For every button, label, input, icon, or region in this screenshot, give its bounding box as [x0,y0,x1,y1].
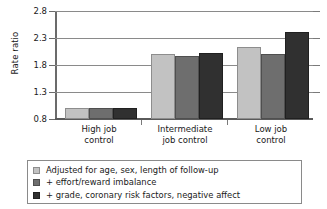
x-category-label-line-2: control [56,135,142,146]
legend-item-grade-risk: + grade, coronary risk factors, negative… [33,189,301,202]
gridline-2.8 [55,11,313,12]
legend-swatch-icon-grade-risk [33,192,40,199]
legend-item-effort-reward: + effort/reward imbalance [33,177,301,190]
x-category-label-line-1: Low job [228,124,314,135]
bar-high-job-control-effort-reward [89,108,113,119]
bar-intermediate-job-control-grade-risk [199,53,223,119]
legend-label-effort-reward: + effort/reward imbalance [46,178,156,187]
bar-intermediate-job-control-adjusted [151,54,175,119]
x-category-label-low-job-control: Low job control [228,124,314,145]
x-category-label-intermediate-job-control: Intermediate job control [142,124,228,145]
bar-high-job-control-adjusted [65,108,89,119]
x-category-label-line-1: Intermediate [142,124,228,135]
bar-low-job-control-grade-risk [285,32,309,119]
y-tick-label-1.8: 1.8 [7,61,47,70]
y-tick-mark-right-2.3 [313,38,320,39]
x-category-label-line-2: control [228,135,314,146]
bar-low-job-control-effort-reward [261,54,285,119]
x-category-label-line-2: job control [142,135,228,146]
legend-swatch-icon-adjusted [33,167,40,174]
y-tick-label-2.3: 2.3 [7,34,47,43]
y-tick-mark-right-2.8 [313,11,320,12]
y-axis-title: Rate ratio [10,18,20,88]
legend-swatch-icon-effort-reward [33,179,40,186]
y-tick-label-0.8: 0.8 [7,115,47,124]
y-tick-label-1.3: 1.3 [7,88,47,97]
legend-label-grade-risk: + grade, coronary risk factors, negative… [46,191,240,200]
bar-high-job-control-grade-risk [113,108,137,119]
y-tick-mark-right-1.8 [313,65,320,66]
chart-legend: Adjusted for age, sex, length of follow-… [27,160,302,204]
plot-area [55,11,313,119]
legend-item-adjusted: Adjusted for age, sex, length of follow-… [33,164,301,177]
bar-chart-figure: Rate ratio 2.8 2.3 1.8 1.3 0.8 [0,0,327,209]
y-tick-label-2.8: 2.8 [7,7,47,16]
x-category-label-high-job-control: High job control [56,124,142,145]
bar-low-job-control-adjusted [237,47,261,119]
gridline-2.3 [55,38,313,39]
x-category-label-line-1: High job [56,124,142,135]
y-tick-mark-right-1.3 [313,92,320,93]
legend-label-adjusted: Adjusted for age, sex, length of follow-… [46,166,219,175]
bar-intermediate-job-control-effort-reward [175,56,199,119]
